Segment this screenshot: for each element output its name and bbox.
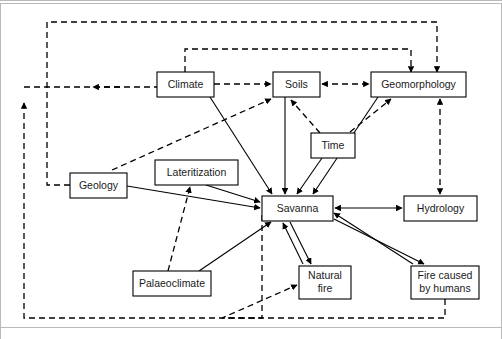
node-fire-caused-by-humans[interactable]: Fire caused by humans bbox=[411, 266, 479, 299]
node-hydrology-label: Hydrology bbox=[417, 202, 465, 214]
node-natural-fire[interactable]: Natural fire bbox=[299, 266, 351, 299]
node-geology-label: Geology bbox=[79, 179, 119, 191]
node-savanna[interactable]: Savanna bbox=[262, 196, 333, 221]
node-savanna-label: Savanna bbox=[277, 202, 319, 214]
node-climate-label: Climate bbox=[168, 78, 204, 90]
node-time[interactable]: Time bbox=[311, 133, 355, 158]
edge-geology-to-savanna bbox=[127, 186, 260, 208]
node-geology[interactable]: Geology bbox=[70, 173, 127, 198]
edge-geology-to-soils bbox=[112, 99, 271, 170]
node-geomorphology-label: Geomorphology bbox=[381, 78, 456, 90]
savanna-system-diagram: Climate Soils Geomorphology Time Geology bbox=[0, 0, 502, 339]
edge-lateritization-to-savanna bbox=[206, 185, 260, 202]
edge-time-to-soils bbox=[291, 100, 320, 133]
edge-time-to-geomorphology bbox=[350, 99, 391, 132]
node-soils[interactable]: Soils bbox=[273, 72, 320, 97]
node-natural-fire-label-line1: Natural bbox=[308, 269, 342, 281]
edge-geology-to-geomorphology bbox=[47, 22, 437, 185]
node-geomorphology[interactable]: Geomorphology bbox=[371, 72, 466, 97]
node-lateritization-label: Lateritization bbox=[167, 166, 227, 178]
node-palaeoclimate-label: Palaeoclimate bbox=[139, 277, 205, 289]
node-lateritization[interactable]: Lateritization bbox=[155, 160, 238, 185]
edge-fire-humans-to-savanna bbox=[334, 213, 413, 264]
diagram-canvas: Climate Soils Geomorphology Time Geology bbox=[0, 0, 502, 339]
nodes-layer: Climate Soils Geomorphology Time Geology bbox=[70, 72, 479, 299]
node-fire-humans-label-line2: by humans bbox=[419, 282, 470, 294]
node-natural-fire-label-line2: fire bbox=[318, 282, 333, 294]
node-time-label: Time bbox=[322, 139, 345, 151]
edge-time-to-savanna bbox=[297, 158, 322, 194]
edge-climate-to-geomorphology bbox=[185, 49, 411, 72]
node-fire-humans-label-line1: Fire caused bbox=[418, 269, 473, 281]
node-hydrology[interactable]: Hydrology bbox=[404, 196, 477, 221]
edge-palaeoclimate-to-lateritization bbox=[168, 187, 190, 271]
node-palaeoclimate[interactable]: Palaeoclimate bbox=[133, 271, 211, 296]
node-climate[interactable]: Climate bbox=[157, 72, 214, 97]
edge-palaeoclimate-to-savanna bbox=[199, 222, 271, 271]
node-soils-label: Soils bbox=[285, 78, 308, 90]
